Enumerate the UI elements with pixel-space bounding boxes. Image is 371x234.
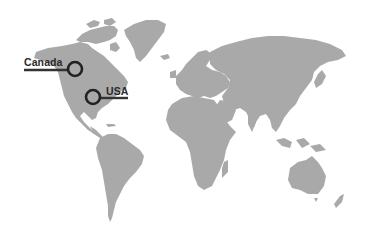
canada-label: Canada [24,57,63,68]
continent-australia [288,156,326,194]
continent-south-america [96,134,144,222]
usa-label: USA [106,86,128,97]
arctic-islands [76,26,118,44]
world-map [0,0,371,234]
continent-greenland [124,20,166,62]
